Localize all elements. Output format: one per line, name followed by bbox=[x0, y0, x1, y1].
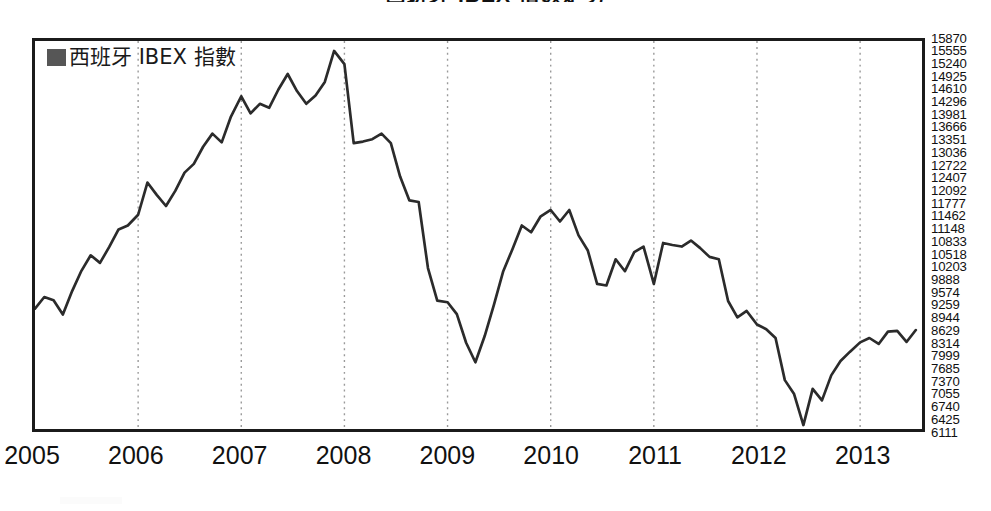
x-tick-label: 2012 bbox=[731, 440, 787, 470]
x-tick-label: 2011 bbox=[628, 440, 682, 470]
legend-label: 西班牙 IBEX 指數 bbox=[69, 47, 236, 68]
scan-artifact bbox=[60, 497, 122, 504]
x-tick-label: 2006 bbox=[108, 440, 164, 470]
legend-color-swatch bbox=[47, 49, 66, 66]
x-tick-label: 2010 bbox=[523, 440, 579, 470]
plot-area: 西班牙 IBEX 指數 bbox=[32, 38, 925, 432]
y-axis-tick-labels: 1587015555152401492514610142961398113666… bbox=[931, 38, 989, 432]
x-tick-label: 2007 bbox=[212, 440, 268, 470]
chart-series-group bbox=[35, 51, 916, 425]
chart-title: 西班牙 IBEX 指數走勢 bbox=[0, 0, 991, 2]
x-tick-label: 2008 bbox=[316, 440, 372, 470]
x-tick-label: 2013 bbox=[835, 440, 891, 470]
x-tick-label: 2009 bbox=[420, 440, 476, 470]
y-tick-label: 6111 bbox=[931, 426, 958, 439]
chart-gridlines bbox=[138, 41, 860, 429]
chart-legend: 西班牙 IBEX 指數 bbox=[47, 47, 236, 68]
x-tick-label: 2005 bbox=[4, 440, 60, 470]
chart-figure: 西班牙 IBEX 指數走勢 西班牙 IBEX 指數 15870155551524… bbox=[0, 0, 991, 511]
data-series-line bbox=[35, 51, 916, 425]
chart-plot-svg bbox=[35, 41, 922, 429]
x-axis-tick-labels: 200520062007200820092010201120122013 bbox=[0, 440, 991, 474]
